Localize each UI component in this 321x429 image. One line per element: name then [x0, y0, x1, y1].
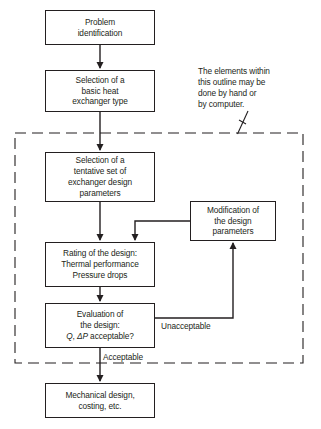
node-evaluation-of-the-design-label: Evaluation of the design: Q, ΔP acceptab…	[66, 309, 134, 341]
node-problem-identification[interactable]: Problem identification	[45, 10, 155, 45]
edge-label-unacceptable: Unacceptable	[160, 321, 212, 331]
node-mechanical-design-costing-label: Mechanical design, costing, etc.	[65, 390, 134, 412]
edge-label-acceptable: Acceptable	[102, 352, 144, 362]
connector-modification-to-rating	[135, 221, 190, 240]
node-rating-of-the-design[interactable]: Rating of the design: Thermal performanc…	[45, 242, 155, 287]
connector-evaluation-to-modification	[155, 243, 233, 318]
node-tentative-design-parameters-label: Selection of a tentative set of exchange…	[68, 155, 132, 198]
node-modification-of-design-parameters[interactable]: Modification of the design parameters	[190, 201, 276, 241]
node-modification-of-design-parameters-label: Modification of the design parameters	[207, 205, 259, 237]
node-evaluation-of-the-design[interactable]: Evaluation of the design: Q, ΔP acceptab…	[45, 303, 155, 348]
node-basic-exchanger-type[interactable]: Selection of a basic heat exchanger type	[45, 70, 155, 112]
node-evaluation-criteria: Q, ΔP acceptable?	[66, 331, 134, 341]
outline-annotation-text: The elements within this outline may be …	[198, 66, 318, 110]
node-rating-of-the-design-label: Rating of the design: Thermal performanc…	[61, 248, 138, 280]
node-problem-identification-label: Problem identification	[78, 17, 123, 39]
node-basic-exchanger-type-label: Selection of a basic heat exchanger type	[72, 75, 127, 107]
node-mechanical-design-costing[interactable]: Mechanical design, costing, etc.	[45, 383, 155, 418]
node-tentative-design-parameters[interactable]: Selection of a tentative set of exchange…	[45, 152, 155, 202]
